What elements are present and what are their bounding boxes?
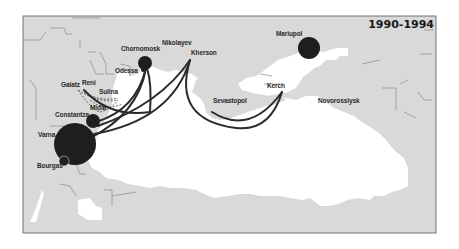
label-constantza: Constantza	[55, 111, 90, 118]
period-title: 1990-1994	[368, 18, 434, 31]
label-mariupol: Mariupol	[276, 30, 303, 38]
label-sevastopol: Sevastopol	[213, 97, 247, 105]
label-novorossiysk: Novorossiysk	[318, 97, 360, 105]
label-sulina: Sulina	[99, 88, 118, 95]
label-reni: Reni	[82, 79, 96, 86]
label-odessa: Odessa	[115, 67, 138, 74]
port-marker-chornomorsk	[138, 56, 152, 70]
label-varna: Varna	[38, 131, 56, 138]
label-bourgas: Bourgas	[37, 162, 63, 170]
label-nikolayev: Nikolayev	[162, 39, 192, 47]
black-sea-port-map: Chornomosk Nikolayev Kherson Odessa Gala…	[0, 0, 459, 249]
port-marker-odessa	[141, 68, 145, 72]
port-marker-mariupol	[298, 37, 320, 59]
label-kerch: Kerch	[267, 82, 285, 89]
label-kherson: Kherson	[191, 49, 217, 56]
label-midia: Midia	[90, 104, 107, 111]
label-chornomorsk: Chornomosk	[121, 45, 161, 52]
label-galatz: Galatz	[61, 81, 81, 88]
